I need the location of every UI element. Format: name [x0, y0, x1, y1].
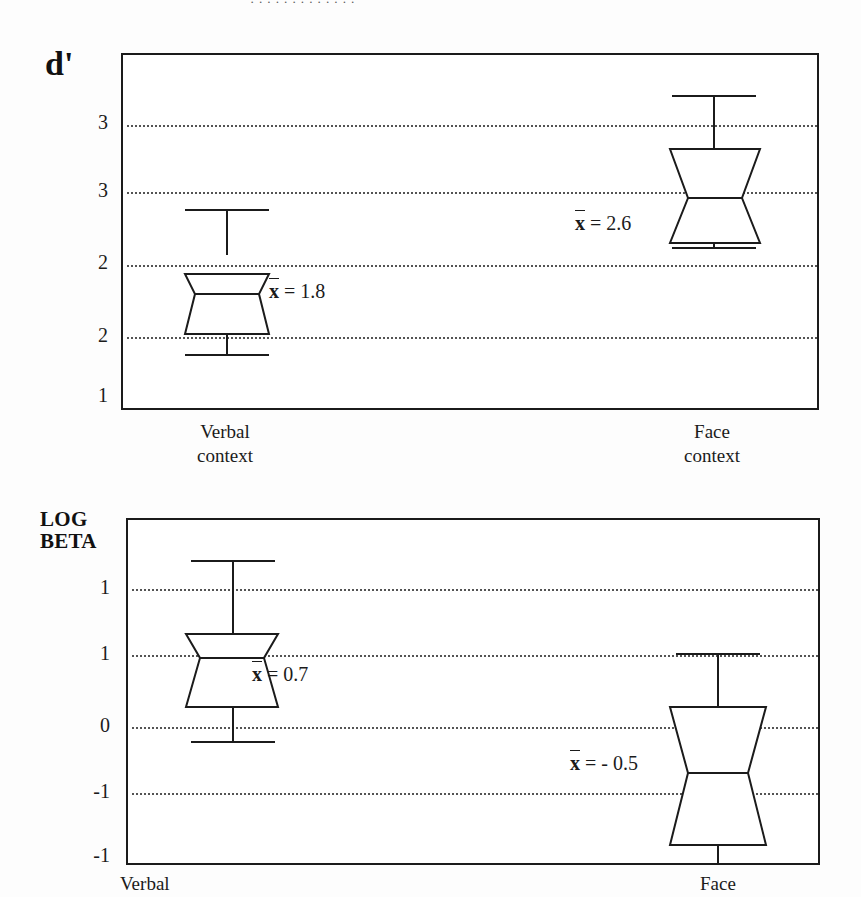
logbeta-figure: LOG BETA 1 1 0 -1 -1 — [0, 0, 861, 897]
mean-value: = - 0.5 — [585, 752, 638, 774]
logbeta-gridline--1.0 — [132, 793, 818, 795]
logbeta-gridline-1.0 — [132, 655, 818, 657]
xbar-symbol: x — [570, 752, 580, 775]
logbeta-boxplots — [128, 520, 818, 863]
logbeta-axis-title: LOG BETA — [40, 508, 97, 553]
logbeta-xlabel-verbal: Verbal — [120, 872, 260, 896]
logbeta-gridline-1.5 — [132, 589, 818, 591]
logbeta-ytick-0: 1 — [60, 577, 110, 597]
boxplot-face — [670, 654, 766, 864]
logbeta-ytick-4: -1 — [60, 845, 110, 865]
logbeta-xlabel-face: Face — [700, 872, 840, 896]
logbeta-mean-label-face: x = - 0.5 — [570, 752, 638, 775]
logbeta-gridline-0.0 — [132, 727, 818, 729]
page-canvas: · · · · · · · · · · · · · d' 3 3 2 2 1 — [0, 0, 861, 897]
logbeta-ytick-1: 1 — [60, 643, 110, 663]
logbeta-ytick-3: -1 — [60, 781, 110, 801]
logbeta-ytick-2: 0 — [60, 715, 110, 735]
xbar-symbol: x — [252, 663, 262, 686]
logbeta-plot-frame — [126, 518, 820, 865]
mean-value: = 0.7 — [267, 663, 308, 685]
logbeta-mean-label-verbal: x = 0.7 — [252, 663, 308, 686]
